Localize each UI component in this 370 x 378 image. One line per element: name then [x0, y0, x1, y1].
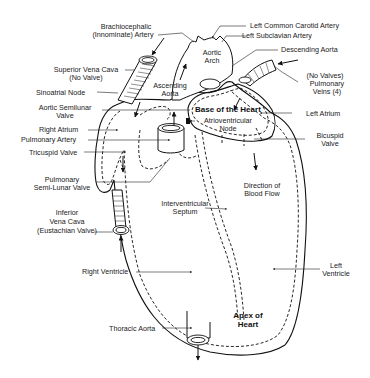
label-septum-2: Septum — [173, 207, 198, 216]
label-ivc-2: Vena Cava — [49, 217, 84, 226]
label-ivc-3: (Eustachian Valve) — [37, 226, 97, 235]
left-atrium-outline — [188, 84, 275, 146]
label-thoracic-aorta: Thoracic Aorta — [109, 324, 155, 333]
label-right-ventricle: Right Ventricle — [82, 267, 128, 276]
label-left-subclavian: Left Subclavian Artery — [242, 31, 312, 40]
label-descending-aorta: Descending Aorta — [281, 45, 338, 54]
label-right-atrium: Right Atrium — [39, 125, 78, 134]
label-apex-2: Heart — [238, 320, 259, 329]
label-pulmonary-artery: Pulmonary Artery — [21, 135, 77, 144]
aortic-arch — [172, 36, 233, 100]
arrow-icon — [152, 38, 164, 55]
arrow-icon — [135, 102, 140, 117]
heart-diagram: Brachiocephalic (Innominate) Artery Left… — [0, 0, 370, 378]
label-svc-2: (No Valve) — [69, 73, 102, 82]
label-pulmonary-veins-3: Veins (4) — [313, 87, 341, 96]
label-aortic-semilunar-2: Valve — [56, 111, 73, 120]
av-node-marker — [186, 118, 190, 124]
label-aortic-arch-2: Arch — [205, 56, 220, 65]
descending-aorta — [239, 60, 276, 86]
label-blood-flow-2: Blood Flow — [244, 189, 280, 198]
label-bicuspid-2: Valve — [321, 139, 338, 148]
label-sinoatrial-node: Sinoatrial Node — [36, 88, 85, 97]
interventricular-septum-lines — [195, 132, 244, 320]
label-base-of-heart: Base of the Heart — [195, 105, 261, 114]
label-left-common-carotid: Left Common Carotid Artery — [250, 21, 339, 30]
label-ivc-1: Inferior — [56, 208, 79, 217]
label-left-ventricle-2: Ventricle — [322, 269, 350, 278]
label-left-atrium: Left Atrium — [306, 109, 340, 118]
label-av-node-2: Node — [219, 124, 236, 133]
heart-outline — [95, 82, 306, 355]
label-ascending-aorta-2: Aorta — [161, 89, 178, 98]
superior-vena-cava — [118, 56, 157, 104]
label-pulmonary-semilunar-2: Semi-Lunar Valve — [34, 183, 91, 192]
thoracic-aorta — [187, 311, 210, 360]
label-tricuspid-valve: Tricuspid Valve — [29, 148, 77, 157]
pulmonary-artery-tube — [158, 124, 184, 154]
label-brachiocephalic-2: (Innominate) Artery — [92, 30, 154, 39]
arrow-icon — [278, 60, 298, 64]
label-apex-1: Apex of — [233, 311, 263, 320]
arrow-icon — [254, 153, 256, 170]
